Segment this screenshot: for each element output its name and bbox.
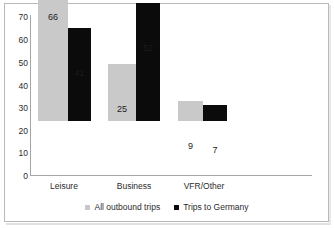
bar-value-vfr-other-trips-to-germany: 7 <box>203 146 227 155</box>
bar-value-business-all-outbound-trips: 25 <box>108 105 136 114</box>
bar-business-trips-to-germany <box>136 3 160 121</box>
bar-chart-figure: 70 60 50 40 30 20 10 0 66 41 25 52 9 7 L… <box>0 0 334 229</box>
bar-vfr-other-trips-to-germany <box>203 105 227 121</box>
bar-value-vfr-other-all-outbound-trips: 9 <box>178 142 203 151</box>
gray-square-marker-icon <box>85 205 90 210</box>
legend-label-trips-to-germany: Trips to Germany <box>183 203 248 212</box>
x-axis-label-leisure: Leisure <box>34 182 94 191</box>
x-axis-label-business: Business <box>104 182 164 191</box>
legend-item-all-outbound-trips[interactable]: All outbound trips <box>85 203 160 212</box>
bar-value-business-trips-to-germany: 52 <box>136 44 160 53</box>
bar-value-leisure-trips-to-germany: 41 <box>68 69 91 78</box>
chart-legend: All outbound trips Trips to Germany <box>0 203 334 212</box>
bars-layer: 66 41 25 52 9 7 <box>0 0 334 175</box>
bar-value-leisure-all-outbound-trips: 66 <box>38 13 68 22</box>
black-square-marker-icon <box>174 205 179 210</box>
legend-item-trips-to-germany[interactable]: Trips to Germany <box>174 203 248 212</box>
x-axis-line <box>30 175 312 176</box>
bar-vfr-other-all-outbound-trips <box>178 101 203 121</box>
legend-label-all-outbound-trips: All outbound trips <box>94 203 160 212</box>
x-axis-label-vfr-other: VFR/Other <box>173 182 235 191</box>
chart-frame-shadow-bottom <box>6 223 331 225</box>
